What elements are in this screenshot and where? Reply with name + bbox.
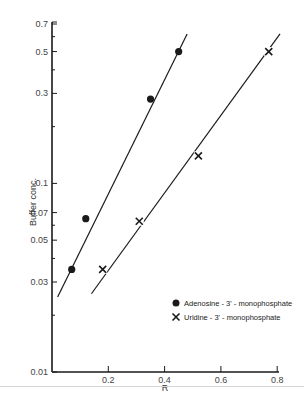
filled-circle-point	[147, 95, 154, 102]
fit-lines	[58, 34, 280, 297]
filled-circle-point	[175, 48, 182, 55]
cross-point	[98, 265, 107, 274]
caption-divider	[0, 386, 304, 387]
y-tick-label: 0.7	[35, 19, 48, 29]
filled-circle-point	[82, 215, 89, 222]
legend-label-adenosine: Adenosine - 3' - monophosphate	[184, 299, 292, 308]
x-tick-label: 0.6	[215, 375, 228, 385]
filled-circle-icon	[173, 300, 180, 307]
y-axis-title: Buffer conc.	[28, 178, 38, 226]
cross-point	[135, 217, 144, 226]
fit-line-0	[58, 34, 187, 297]
data-points	[68, 47, 273, 274]
x-tick-label: 0.2	[102, 375, 115, 385]
y-tick-label: 0.01	[30, 367, 48, 377]
cross-point	[264, 47, 273, 56]
fit-line-1	[91, 34, 280, 294]
cross-point	[194, 151, 203, 160]
log-scatter-chart: 0.010.030.050.070.10.30.50.70.20.40.60.8…	[0, 0, 304, 400]
y-tick-label: 0.03	[30, 277, 48, 287]
tick-layer: 0.010.030.050.070.10.30.50.70.20.40.60.8	[30, 19, 283, 385]
x-axis-title: R	[162, 383, 169, 393]
filled-circle-point	[68, 266, 75, 273]
y-tick-label: 0.5	[35, 47, 48, 57]
x-tick-label: 0.8	[271, 375, 284, 385]
legend: Adenosine - 3' - monophosphate Uridine -…	[173, 299, 293, 322]
y-tick-label: 0.05	[30, 235, 48, 245]
cross-icon	[173, 314, 180, 321]
legend-label-uridine: Uridine - 3' - monophosphate	[184, 313, 281, 322]
y-tick-label: 0.3	[35, 88, 48, 98]
